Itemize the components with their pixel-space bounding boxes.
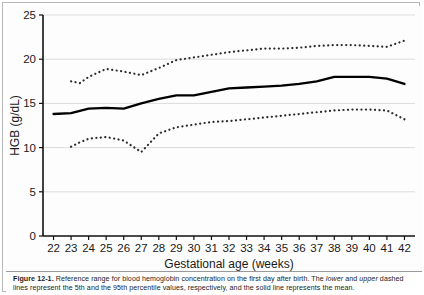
figure-caption: Figure 12-1. Reference range for blood h… — [6, 271, 422, 295]
figure-frame: 0510152025 22232425262728293031323334353… — [2, 2, 420, 292]
caption-connector: and — [345, 275, 357, 283]
x-tick-label-22: 22 — [47, 242, 60, 254]
x-tick-label-23: 23 — [65, 242, 78, 254]
y-tick-label-5: 5 — [30, 186, 36, 198]
x-tick-label-30: 30 — [188, 242, 201, 254]
figure-container: 0510152025 22232425262728293031323334353… — [0, 0, 424, 295]
x-tick-label-37: 37 — [310, 242, 323, 254]
x-tick-label-25: 25 — [100, 242, 113, 254]
y-tick-label-10: 10 — [23, 142, 36, 154]
x-tick-label-41: 41 — [381, 242, 394, 254]
x-tick-label-32: 32 — [223, 242, 236, 254]
series-line-2 — [71, 110, 404, 152]
figure-number: Figure 12-1. — [13, 275, 54, 283]
x-tick-label-36: 36 — [293, 242, 306, 254]
chart-plot-panel: 0510152025 22232425262728293031323334353… — [6, 6, 422, 271]
y-tick-label-15: 15 — [23, 97, 36, 109]
x-tick-label-34: 34 — [258, 242, 271, 254]
hgb-reference-range-chart: 0510152025 22232425262728293031323334353… — [6, 6, 422, 271]
gridlines-group — [43, 15, 415, 192]
x-tick-label-29: 29 — [170, 242, 183, 254]
x-tick-label-39: 39 — [345, 242, 358, 254]
y-axis: 0510152025 — [23, 9, 43, 242]
x-axis-title: Gestational age (weeks) — [164, 257, 293, 271]
x-tick-label-28: 28 — [152, 242, 165, 254]
caption-sentence-1: Reference range for blood hemoglobin con… — [56, 275, 324, 283]
x-axis-label: Gestational age (weeks) — [164, 257, 293, 271]
x-tick-label-40: 40 — [363, 242, 376, 254]
caption-paragraph: Figure 12-1. Reference range for blood h… — [13, 275, 415, 292]
x-tick-label-26: 26 — [117, 242, 130, 254]
series-line-1 — [54, 77, 405, 114]
x-tick-label-42: 42 — [398, 242, 411, 254]
y-axis-label: HGB (g/dL) — [8, 95, 22, 156]
caption-emphasis-upper: upper — [359, 275, 378, 283]
x-tick-label-35: 35 — [275, 242, 288, 254]
y-tick-label-25: 25 — [23, 9, 36, 21]
x-tick-label-33: 33 — [240, 242, 253, 254]
x-tick-label-31: 31 — [205, 242, 218, 254]
y-axis-title: HGB (g/dL) — [8, 95, 22, 156]
data-series-group — [54, 41, 405, 152]
y-tick-label-20: 20 — [23, 53, 36, 65]
caption-emphasis-lower: lower — [326, 275, 343, 283]
x-tick-label-24: 24 — [82, 242, 95, 254]
x-tick-label-38: 38 — [328, 242, 341, 254]
x-axis: 2223242526272829303132333435363738394041… — [43, 236, 415, 254]
x-tick-label-27: 27 — [135, 242, 148, 254]
y-tick-label-0: 0 — [30, 230, 36, 242]
